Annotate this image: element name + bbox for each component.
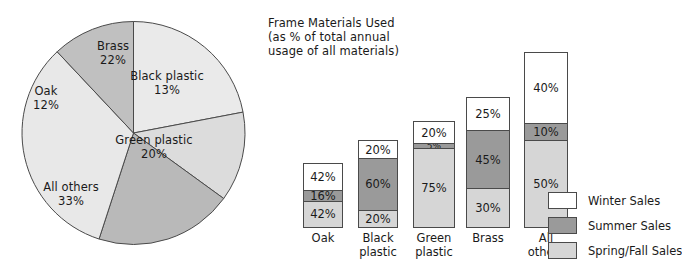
bar-segment: 16% bbox=[304, 190, 342, 200]
bar-stack: 20%60%20% bbox=[358, 140, 398, 228]
bar-segment-value: 20% bbox=[365, 143, 391, 157]
legend-label-spring-fall: Spring/Fall Sales bbox=[588, 244, 682, 258]
bar-stack: 25%45%30% bbox=[466, 97, 510, 228]
bar-segment: 25% bbox=[467, 98, 509, 130]
legend-label-winter: Winter Sales bbox=[588, 194, 660, 208]
legend-label-summer: Summer Sales bbox=[588, 219, 671, 233]
bar-column: 25%45%30%Brass bbox=[466, 0, 510, 271]
bar-segment-value: 75% bbox=[421, 181, 447, 195]
bar-segment-value: 20% bbox=[365, 212, 391, 226]
bar-segment: 30% bbox=[467, 188, 509, 227]
bar-segment-value: 10% bbox=[533, 125, 559, 139]
bar-column: 20%60%20%Black plastic bbox=[358, 0, 398, 271]
bar-stack: 42%16%42% bbox=[303, 163, 343, 228]
legend-swatch-spring-fall bbox=[548, 242, 577, 259]
bar-segment: 45% bbox=[467, 130, 509, 188]
bar-segment: 42% bbox=[304, 164, 342, 190]
bar-segment-value: 25% bbox=[475, 107, 501, 121]
legend-swatch-summer bbox=[548, 217, 577, 234]
bar-column: 42%16%42%Oak bbox=[303, 0, 343, 271]
bar-segment: 60% bbox=[359, 158, 397, 210]
bar-column: 20%5%75%Green plastic bbox=[413, 0, 455, 271]
legend-item-spring-fall: Spring/Fall Sales bbox=[548, 240, 682, 261]
bar-segment: 10% bbox=[525, 123, 567, 140]
bar-segment-value: 20% bbox=[421, 126, 447, 140]
bar-segment-value: 42% bbox=[310, 170, 336, 184]
legend-item-summer: Summer Sales bbox=[548, 215, 682, 236]
legend: Winter Sales Summer Sales Spring/Fall Sa… bbox=[548, 190, 682, 265]
bar-segment-value: 45% bbox=[475, 153, 501, 167]
bar-segment-value: 30% bbox=[475, 201, 501, 215]
bar-segment: 20% bbox=[414, 122, 454, 143]
bar-segment-value: 40% bbox=[533, 81, 559, 95]
bar-segment-value: 42% bbox=[310, 207, 336, 221]
bar-segment: 75% bbox=[414, 148, 454, 227]
bar-segment: 40% bbox=[525, 53, 567, 123]
bar-segment-value: 50% bbox=[533, 177, 559, 191]
bar-stack: 20%5%75% bbox=[413, 121, 455, 228]
legend-item-winter: Winter Sales bbox=[548, 190, 682, 211]
bar-segment: 20% bbox=[359, 210, 397, 227]
bar-segment-value: 16% bbox=[310, 190, 336, 200]
bar-segment: 20% bbox=[359, 141, 397, 158]
bar-segment-value: 60% bbox=[365, 177, 391, 191]
legend-swatch-winter bbox=[548, 192, 577, 209]
bar-segment: 42% bbox=[304, 201, 342, 227]
